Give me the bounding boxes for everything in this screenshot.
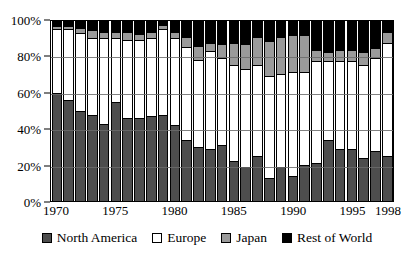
bar-segment [300,165,309,201]
bar-segment [194,21,203,46]
bar-1994[interactable] [335,21,346,201]
bar-segment [53,93,62,201]
bar-segment [348,62,357,148]
bar-1998[interactable] [382,21,393,201]
y-axis: 0%20%40%60%80%100% [0,20,50,202]
bar-segment [206,149,215,201]
x-tick-label: 1980 [162,204,188,217]
bar-segment [230,66,239,161]
legend-swatch-icon [221,233,231,243]
bar-1977[interactable] [134,21,145,201]
bar-segment [123,41,132,118]
bar-segment [123,21,132,32]
bar-segment [194,147,203,201]
x-tick-label: 1970 [43,204,69,217]
bar-segment [241,21,250,44]
bar-segment [147,21,156,32]
bar-segment [194,46,203,60]
bar-1986[interactable] [240,21,251,201]
bar-1987[interactable] [252,21,263,201]
bar-segment [230,161,239,201]
bar-segment [135,21,144,34]
bar-1995[interactable] [347,21,358,201]
bar-1976[interactable] [122,21,133,201]
bar-segment [171,32,180,39]
bar-1978[interactable] [146,21,157,201]
bar-segment [336,21,345,50]
bar-segment [265,41,274,77]
legend-swatch-icon [42,233,52,243]
bar-1970[interactable] [52,21,63,201]
bar-segment [135,118,144,201]
bar-1983[interactable] [205,21,216,201]
bar-segment [336,50,345,63]
bar-segment [359,66,368,158]
x-axis: 1970197519801985199019951998 [50,202,394,226]
bar-segment [277,21,286,37]
bar-segment [100,32,109,39]
y-tick-label: 60% [17,86,41,99]
legend-item[interactable]: Japan [221,231,267,245]
bar-1992[interactable] [311,21,322,201]
bar-segment [359,21,368,52]
bar-segment [171,39,180,125]
bar-1980[interactable] [170,21,181,201]
plot-area [50,20,394,202]
bar-1972[interactable] [75,21,86,201]
bar-1975[interactable] [111,21,122,201]
bar-segment [300,35,309,73]
bar-1982[interactable] [193,21,204,201]
legend-item[interactable]: Rest of World [282,231,372,245]
bar-segment [112,32,121,39]
bar-1979[interactable] [158,21,169,201]
bar-1984[interactable] [217,21,228,201]
bar-segment [324,140,333,201]
bar-1981[interactable] [181,21,192,201]
bar-1991[interactable] [299,21,310,201]
bar-1990[interactable] [288,21,299,201]
bar-segment [348,21,357,50]
bar-1971[interactable] [63,21,74,201]
bar-1993[interactable] [323,21,334,201]
bar-segment [171,21,180,32]
legend-item[interactable]: North America [42,231,138,245]
bar-1997[interactable] [370,21,381,201]
bar-segment [159,115,168,201]
y-tick-label: 0% [24,196,41,209]
bar-segment [76,111,85,201]
bar-1985[interactable] [229,21,240,201]
y-tick-label: 100% [11,14,41,27]
bar-segment [312,50,321,63]
bar-segment [383,32,392,45]
x-tick-label: 1985 [221,204,247,217]
bar-segment [241,167,250,201]
bar-segment [123,118,132,201]
bar-segment [194,61,203,147]
y-tick-label: 80% [17,50,41,63]
bar-segment [182,37,191,48]
bar-segment [336,149,345,201]
bar-segment [171,125,180,201]
bar-1996[interactable] [358,21,369,201]
bar-segment [206,43,215,52]
bar-1988[interactable] [264,21,275,201]
legend-item[interactable]: Europe [152,231,206,245]
bar-1974[interactable] [99,21,110,201]
bar-segment [64,30,73,100]
bar-1989[interactable] [276,21,287,201]
bar-segment [265,178,274,201]
bar-segment [253,21,262,37]
bar-segment [324,21,333,52]
bar-segment [182,48,191,140]
bar-segment [265,21,274,41]
bar-segment [206,52,215,149]
bar-segment [230,43,239,66]
bar-segment [371,48,380,59]
bar-segment [336,62,345,148]
stacked-bar-chart: 0%20%40%60%80%100% 197019751980198519901… [0,0,414,257]
bar-segment [371,21,380,48]
bar-segment [135,34,144,41]
bar-segment [230,21,239,43]
bar-1973[interactable] [87,21,98,201]
bar-segment [88,21,97,30]
